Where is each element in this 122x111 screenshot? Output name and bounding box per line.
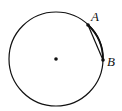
center-point: [54, 57, 58, 61]
circle-diagram: A B: [0, 0, 122, 111]
label-b: B: [107, 54, 115, 69]
point-a: [86, 23, 90, 27]
point-b: [101, 58, 105, 62]
label-a: A: [90, 9, 99, 24]
